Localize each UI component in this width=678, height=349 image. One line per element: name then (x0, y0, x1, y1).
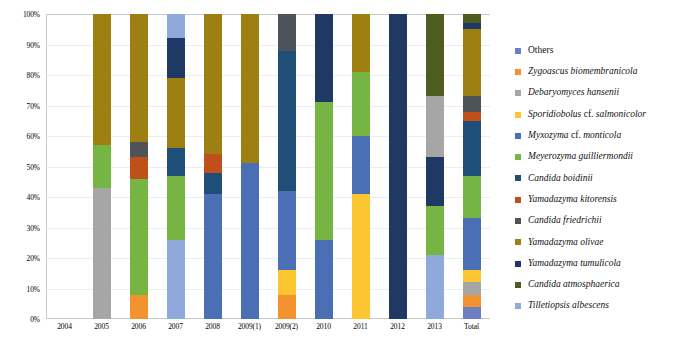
y-axis-tick-label: 20% (0, 254, 40, 263)
bar-segment[interactable] (167, 176, 185, 240)
legend-swatch-icon (515, 239, 521, 245)
bar-column-20091[interactable] (241, 14, 259, 319)
bar-segment[interactable] (315, 240, 333, 319)
legend-item[interactable]: Candida boidinii (515, 168, 675, 189)
legend-item-label: Others (528, 46, 553, 56)
bar-segment[interactable] (352, 14, 370, 72)
legend-item[interactable]: Debaryomyces hansenii (515, 83, 675, 104)
bar-segment[interactable] (167, 38, 185, 78)
bar-segment[interactable] (463, 176, 481, 219)
legend-item-label: Yamadazyma tumulicola (528, 259, 621, 269)
bar-segment[interactable] (204, 14, 222, 154)
bar-segment[interactable] (463, 270, 481, 282)
bar-segment[interactable] (241, 14, 259, 163)
bar-stack (93, 14, 111, 319)
bar-column-2006[interactable] (130, 14, 148, 319)
legend-item[interactable]: Candida friedrichii (515, 210, 675, 231)
bar-segment[interactable] (315, 102, 333, 239)
bar-segment[interactable] (167, 78, 185, 148)
legend-swatch-icon (515, 69, 521, 75)
bar-segment[interactable] (352, 194, 370, 319)
bar-segment[interactable] (204, 194, 222, 319)
legend-swatch-icon (515, 197, 521, 203)
x-axis: 200420052006200720082009(1)2009(2)201020… (46, 319, 490, 341)
legend-swatch-icon (515, 218, 521, 224)
legend-swatch-icon (515, 261, 521, 267)
bar-segment[interactable] (167, 240, 185, 319)
bar-segment[interactable] (426, 255, 444, 319)
bar-segment[interactable] (93, 188, 111, 319)
legend-swatch-icon (515, 282, 521, 288)
bar-column-20092[interactable] (278, 14, 296, 319)
bar-segment[interactable] (167, 14, 185, 38)
bar-stack (241, 14, 259, 319)
bar-segment[interactable] (204, 154, 222, 172)
legend-item[interactable]: Zygoascus biomembranicola (515, 61, 675, 82)
bar-column-2013[interactable] (426, 14, 444, 319)
bar-segment[interactable] (130, 179, 148, 295)
bar-segment[interactable] (463, 29, 481, 96)
bar-segment[interactable] (278, 191, 296, 270)
bar-segment[interactable] (426, 157, 444, 206)
bar-segment[interactable] (463, 23, 481, 29)
bar-segment[interactable] (426, 96, 444, 157)
bar-column-2005[interactable] (93, 14, 111, 319)
bar-segment[interactable] (463, 96, 481, 111)
bar-segment[interactable] (463, 307, 481, 319)
legend-item[interactable]: Candida atmosphaerica (515, 274, 675, 295)
bar-stack (315, 14, 333, 319)
y-axis-tick-label: 90% (0, 40, 40, 49)
bar-column-2010[interactable] (315, 14, 333, 319)
bar-column-Total[interactable] (463, 14, 481, 319)
bar-segment[interactable] (130, 157, 148, 178)
bar-segment[interactable] (130, 14, 148, 142)
bar-column-2012[interactable] (389, 14, 407, 319)
y-axis-tick-label: 70% (0, 101, 40, 110)
legend-item[interactable]: Meyerozyma guilliermondii (515, 146, 675, 167)
bar-segment[interactable] (463, 14, 481, 23)
y-axis-tick-label: 30% (0, 223, 40, 232)
bar-column-2004[interactable] (56, 14, 74, 319)
bar-segment[interactable] (278, 51, 296, 191)
bar-segment[interactable] (463, 282, 481, 294)
bar-stack (167, 14, 185, 319)
bar-segment[interactable] (93, 14, 111, 145)
legend-item[interactable]: Tilletiopsis albescens (515, 296, 675, 317)
bar-column-2007[interactable] (167, 14, 185, 319)
legend-item-label: Yamadazyma olivae (528, 238, 603, 248)
bar-segment[interactable] (93, 145, 111, 188)
bar-stack (389, 14, 407, 319)
bar-segment[interactable] (463, 218, 481, 270)
bar-column-2011[interactable] (352, 14, 370, 319)
bar-segment[interactable] (278, 270, 296, 294)
x-axis-tick-label: 2012 (379, 322, 416, 331)
y-axis-tick-label: 80% (0, 71, 40, 80)
bar-segment[interactable] (389, 14, 407, 319)
legend-item[interactable]: Others (515, 40, 675, 61)
x-axis-tick-label: 2008 (194, 322, 231, 331)
legend-item[interactable]: Yamadazyma tumulicola (515, 253, 675, 274)
bar-segment[interactable] (426, 14, 444, 96)
bar-segment[interactable] (241, 163, 259, 319)
bar-segment[interactable] (130, 142, 148, 157)
legend-item[interactable]: Yamadazyma olivae (515, 232, 675, 253)
bar-segment[interactable] (463, 112, 481, 121)
legend-item-label: Candida friedrichii (528, 216, 602, 226)
legend-item[interactable]: Myxozyma cf. monticola (515, 125, 675, 146)
bar-segment[interactable] (278, 295, 296, 319)
bar-segment[interactable] (463, 295, 481, 307)
x-axis-tick-label: 2009(1) (231, 322, 268, 331)
bar-segment[interactable] (278, 14, 296, 51)
bar-stack (130, 14, 148, 319)
legend-item[interactable]: Yamadazyma kitorensis (515, 189, 675, 210)
bar-column-2008[interactable] (204, 14, 222, 319)
bar-segment[interactable] (352, 136, 370, 194)
bar-segment[interactable] (204, 173, 222, 194)
bar-segment[interactable] (352, 72, 370, 136)
bar-segment[interactable] (315, 14, 333, 102)
legend-item[interactable]: Sporidiobolus cf. salmonicolor (515, 104, 675, 125)
bar-segment[interactable] (463, 121, 481, 176)
bar-segment[interactable] (167, 148, 185, 175)
bar-segment[interactable] (426, 206, 444, 255)
bar-segment[interactable] (130, 295, 148, 319)
